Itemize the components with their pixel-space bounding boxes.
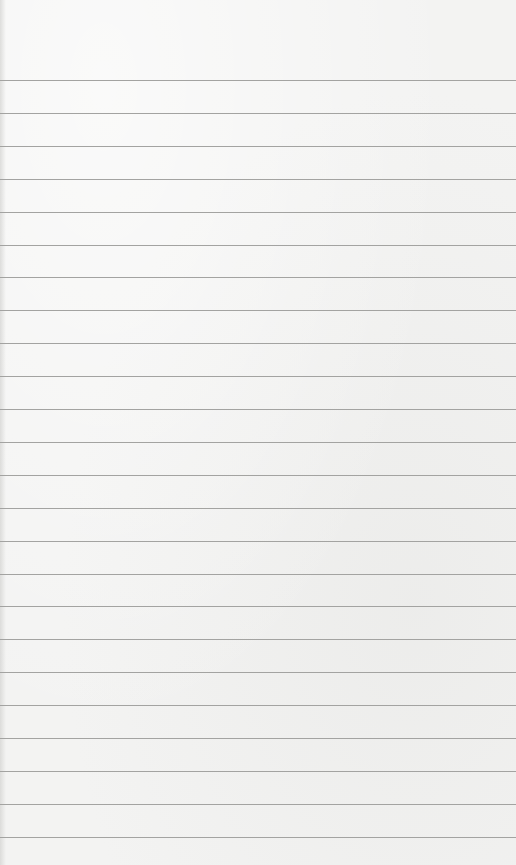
ruled-line xyxy=(0,804,516,805)
ruled-line xyxy=(0,639,516,640)
ruled-line xyxy=(0,475,516,476)
ruled-line xyxy=(0,541,516,542)
ruled-line xyxy=(0,310,516,311)
ruled-line xyxy=(0,672,516,673)
ruled-line xyxy=(0,442,516,443)
ruled-line xyxy=(0,606,516,607)
ruled-line xyxy=(0,277,516,278)
ruled-line xyxy=(0,113,516,114)
ruled-line xyxy=(0,212,516,213)
ruled-line xyxy=(0,343,516,344)
ruled-line xyxy=(0,771,516,772)
ruled-line xyxy=(0,738,516,739)
ruled-line xyxy=(0,574,516,575)
ruled-line xyxy=(0,376,516,377)
ruled-line xyxy=(0,409,516,410)
ruled-line xyxy=(0,245,516,246)
ruled-line xyxy=(0,146,516,147)
lined-paper xyxy=(0,0,516,865)
ruled-line xyxy=(0,508,516,509)
ruled-line xyxy=(0,705,516,706)
ruled-line xyxy=(0,80,516,81)
ruled-line xyxy=(0,837,516,838)
ruled-line xyxy=(0,179,516,180)
paper-left-edge-shadow xyxy=(0,0,6,865)
